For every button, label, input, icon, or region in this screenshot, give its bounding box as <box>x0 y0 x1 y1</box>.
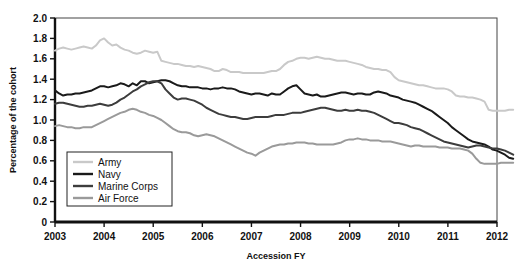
x-tick-label: 2011 <box>437 231 459 242</box>
x-tick-label: 2003 <box>44 231 67 242</box>
x-tick-label: 2009 <box>339 231 362 242</box>
x-tick-label: 2008 <box>289 231 312 242</box>
x-axis-title: Accession FY <box>246 251 305 261</box>
x-tick-label: 2012 <box>486 231 509 242</box>
chart-figure: 00.20.40.60.81.01.21.41.61.82.0200320042… <box>0 0 518 268</box>
x-tick-label: 2005 <box>142 231 165 242</box>
y-tick-label: 0 <box>41 217 47 228</box>
x-tick-label: 2010 <box>388 231 411 242</box>
line-chart: 00.20.40.60.81.01.21.41.61.82.0200320042… <box>0 0 518 268</box>
series-line-army <box>55 38 513 110</box>
x-tick-label: 2007 <box>240 231 263 242</box>
legend-label-army: Army <box>98 157 121 168</box>
legend-label-marine-corps: Marine Corps <box>98 181 158 192</box>
x-tick-label: 2004 <box>93 231 116 242</box>
y-tick-label: 1.0 <box>33 115 47 126</box>
legend-label-navy: Navy <box>98 169 121 180</box>
x-tick-label: 2006 <box>191 231 214 242</box>
y-tick-label: 0.8 <box>33 135 47 146</box>
y-tick-label: 0.6 <box>33 155 47 166</box>
y-tick-label: 0.4 <box>33 176 47 187</box>
y-tick-label: 0.2 <box>33 196 47 207</box>
y-tick-label: 1.6 <box>33 53 47 64</box>
y-axis-title: Percentage of the cohort <box>8 67 18 173</box>
y-tick-label: 1.8 <box>33 33 47 44</box>
y-tick-label: 1.4 <box>33 74 47 85</box>
y-tick-label: 2.0 <box>33 13 47 24</box>
y-tick-label: 1.2 <box>33 94 47 105</box>
legend-label-air-force: Air Force <box>98 193 139 204</box>
